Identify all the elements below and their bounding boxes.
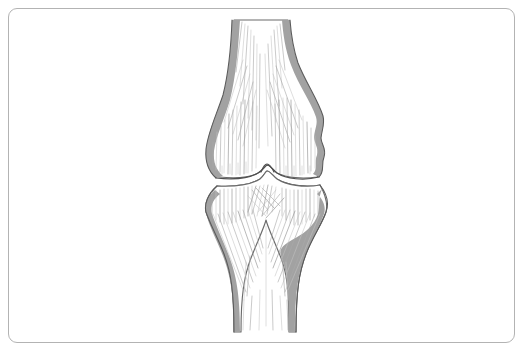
knee-joint-figure xyxy=(0,0,525,353)
tibia-group xyxy=(205,171,327,332)
illustration-canvas xyxy=(0,0,525,353)
femur-group xyxy=(206,20,325,178)
knee-joint-drawing xyxy=(0,0,525,353)
